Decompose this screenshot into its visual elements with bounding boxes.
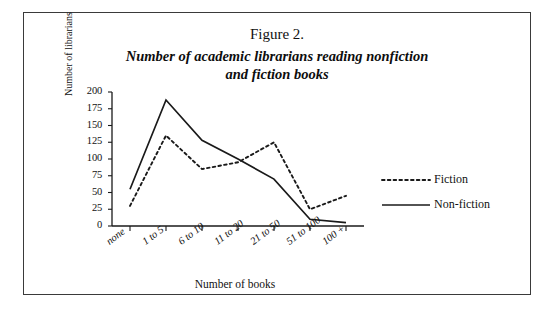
y-tick-label: 100 bbox=[76, 152, 102, 163]
series-line-fiction bbox=[130, 136, 346, 210]
y-tick-label: 75 bbox=[76, 169, 102, 180]
y-axis-title: Number of librarians bbox=[63, 0, 74, 109]
y-tick-label: 150 bbox=[76, 119, 102, 130]
y-tick-label: 175 bbox=[76, 102, 102, 113]
y-tick-label: 25 bbox=[76, 202, 102, 213]
y-tick-label: 125 bbox=[76, 135, 102, 146]
y-tick-label: 200 bbox=[76, 85, 102, 96]
x-axis-title: Number of books bbox=[110, 278, 360, 290]
plot-area: 0255075100125150175200 none1 to 56 to 10… bbox=[24, 13, 532, 296]
legend-label-fiction: Fiction bbox=[434, 172, 468, 187]
y-tick-label: 0 bbox=[76, 219, 102, 230]
y-tick-label: 50 bbox=[76, 186, 102, 197]
legend-label-non-fiction: Non-fiction bbox=[434, 197, 490, 212]
figure-frame: Figure 2. Number of academic librarians … bbox=[23, 12, 531, 295]
